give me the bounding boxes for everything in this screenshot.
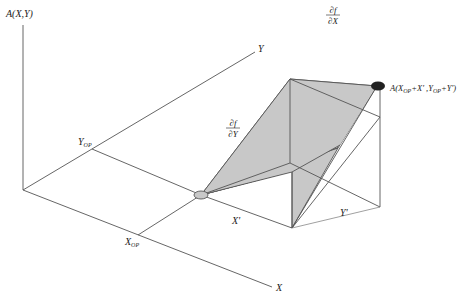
operating-point — [194, 191, 208, 199]
y-op-projection — [92, 149, 201, 195]
partial-derivative-y: ∂f ∂Y — [226, 118, 240, 139]
x-axis — [23, 190, 272, 287]
x-prime-label: X' — [231, 215, 241, 226]
y-op-label: YOP — [78, 136, 92, 148]
y-prime-label: Y' — [340, 207, 349, 218]
x-op-projection — [138, 195, 201, 235]
result-point — [371, 82, 385, 91]
edge-x-prime — [201, 195, 292, 228]
result-point-label: A(XOP+X' ,YOP+Y') — [389, 83, 456, 94]
edge-y-prime — [292, 207, 380, 228]
y-axis-label: Y — [258, 43, 265, 54]
partial-derivative-x: ∂f ∂X — [326, 5, 340, 26]
x-op-label: XOP — [124, 236, 139, 248]
x-axis-label: X — [275, 282, 283, 293]
svg-text:∂f: ∂f — [330, 5, 338, 15]
svg-text:∂X: ∂X — [328, 16, 338, 26]
vertical-axis-label: A(X,Y) — [5, 8, 34, 20]
linearization-diagram: A(X,Y) Y X YOP XOP X' Y' ∂f ∂X ∂f ∂Y A(X… — [0, 0, 470, 304]
svg-text:∂Y: ∂Y — [228, 129, 238, 139]
svg-text:∂f: ∂f — [230, 118, 238, 128]
